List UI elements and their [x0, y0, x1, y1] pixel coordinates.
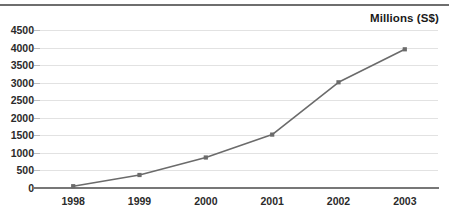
series-data-point — [71, 184, 75, 188]
series-data-point — [270, 133, 274, 137]
series-data-point — [204, 155, 208, 159]
chart-figure: Millions (S$) 05001000150020002500300035… — [0, 0, 449, 217]
series-line-1 — [73, 49, 405, 186]
series-marker-group — [71, 47, 407, 188]
series-data-point — [336, 80, 340, 84]
series-line-chart — [0, 0, 449, 217]
series-data-point — [403, 47, 407, 51]
series-data-point — [137, 173, 141, 177]
